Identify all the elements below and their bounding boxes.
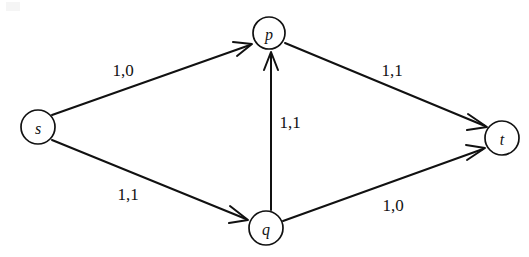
node-p-label: p — [264, 26, 273, 44]
diagram-canvas: 1,0 1,1 1,1 1,1 1,0 s — [0, 0, 529, 257]
node-q-label: q — [262, 221, 270, 239]
node-s-label: s — [35, 120, 41, 137]
edge-s-p-label: 1,0 — [112, 61, 133, 80]
node-p[interactable]: p — [253, 17, 285, 49]
node-s[interactable]: s — [21, 110, 55, 144]
node-q[interactable]: q — [249, 211, 283, 245]
node-t-label: t — [500, 131, 505, 148]
edge-q-t-label: 1,0 — [382, 196, 403, 215]
edge-q-t: 1,0 — [283, 145, 485, 221]
edge-q-p: 1,1 — [264, 52, 301, 210]
flow-network-graph: 1,0 1,1 1,1 1,1 1,0 s — [0, 0, 529, 257]
edge-s-p-line — [52, 45, 250, 115]
edge-s-q-line — [52, 140, 246, 219]
edge-s-q-arrowhead — [229, 206, 248, 223]
edge-s-q-label: 1,1 — [117, 185, 138, 204]
edge-s-p: 1,0 — [52, 42, 252, 115]
edge-p-t-label: 1,1 — [381, 61, 402, 80]
edge-q-p-label: 1,1 — [279, 113, 300, 132]
edge-s-q: 1,1 — [52, 140, 248, 223]
node-t[interactable]: t — [485, 121, 519, 155]
edge-p-t-line — [285, 43, 485, 126]
edge-p-t: 1,1 — [285, 43, 487, 130]
